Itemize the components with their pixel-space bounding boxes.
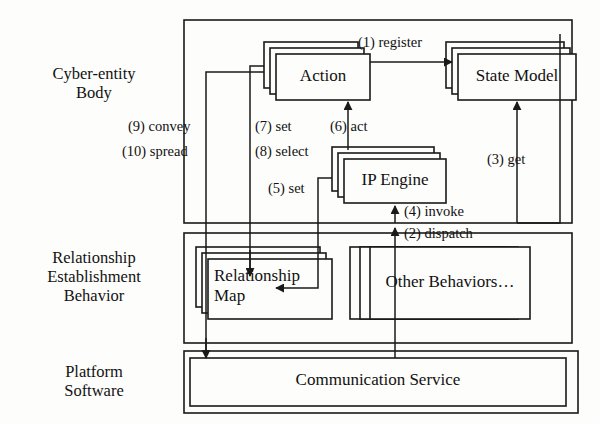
edge-label-6-act: (6) act: [330, 118, 367, 135]
layer-label-platform-software: Platform Software: [14, 362, 174, 400]
edge-label-10-spread: (10) spread: [122, 143, 188, 160]
edge-label-7-set: (7) set: [255, 118, 292, 135]
diagram-canvas: Cyber-entity Body Relationship Establish…: [0, 0, 600, 424]
edge-label-4-invoke: (4) invoke: [404, 203, 464, 220]
edge-label-8-select: (8) select: [255, 143, 309, 160]
layer-label-cyber-entity-body: Cyber-entity Body: [14, 64, 174, 102]
edge-5-path: [318, 178, 332, 233]
edge-label-3-get: (3) get: [487, 151, 525, 168]
node-other-behaviors[interactable]: [350, 247, 530, 319]
node-state-model[interactable]: [446, 42, 576, 100]
layer-label-relationship-establishment-behavior: Relationship Establishment Behavior: [6, 248, 182, 305]
node-action[interactable]: [264, 42, 370, 100]
node-ip-engine[interactable]: [332, 147, 446, 203]
edge-label-5-set: (5) set: [268, 180, 305, 197]
edge-label-2-dispatch: (2) dispatch: [404, 225, 473, 242]
node-communication-service[interactable]: [190, 358, 566, 406]
node-relationship-map[interactable]: [196, 247, 332, 319]
edge-label-9-convey: (9) convey: [128, 118, 190, 135]
